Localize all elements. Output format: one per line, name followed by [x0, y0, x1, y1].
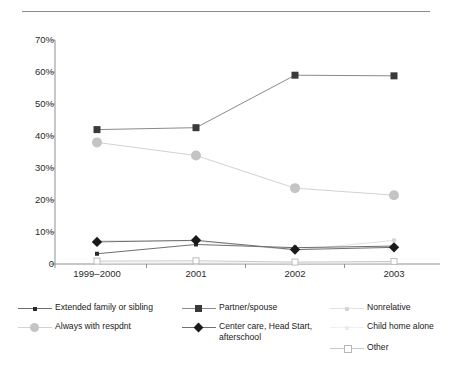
y-axis-tick-label-text: 10% [18, 227, 54, 236]
chart-legend: Extended family or siblingPartner/spouse… [0, 300, 452, 378]
legend-label: Nonrelative [367, 302, 410, 313]
series-line [97, 261, 394, 262]
y-axis-tick-label: 0 [12, 259, 54, 269]
data-point-marker [290, 244, 300, 254]
legend-label: Extended family or sibling [55, 302, 153, 313]
legend-label: Other [367, 342, 389, 353]
data-point-marker [193, 258, 199, 264]
legend-label: Partner/spouse [219, 302, 277, 313]
data-point-marker [92, 137, 102, 147]
legend-swatch [182, 322, 216, 333]
legend-open-square-marker-icon [344, 345, 352, 353]
data-point-marker [95, 252, 99, 256]
data-point-marker [391, 72, 398, 79]
legend-swatch [330, 303, 364, 314]
legend-small-square-marker-icon [345, 307, 349, 311]
line-chart-svg [0, 0, 452, 292]
legend-square-marker-icon [195, 305, 202, 312]
legend-item[interactable]: Extended family or sibling [18, 302, 153, 314]
legend-label: Always with respdnt [55, 321, 131, 332]
legend-small-square-marker-icon [33, 307, 37, 311]
y-axis-tick-label: 30% [12, 163, 54, 173]
data-point-marker [389, 190, 399, 200]
legend-swatch [330, 322, 364, 333]
legend-swatch [182, 303, 216, 314]
y-axis-tick-label-text: 30% [18, 163, 54, 172]
y-axis-tick-label-text: 0 [18, 259, 54, 268]
legend-item[interactable]: Partner/spouse [182, 302, 277, 314]
data-point-marker [191, 151, 201, 161]
legend-swatch [18, 322, 52, 333]
series-center-care-head-start-afterschool [92, 235, 399, 255]
x-axis-tick-label: 2001 [151, 268, 241, 279]
y-axis-tick-label-text: 20% [18, 195, 54, 204]
legend-item[interactable]: Always with respdnt [18, 321, 131, 333]
series-partner-spouse [94, 72, 398, 133]
y-axis-tick-label: 50% [12, 99, 54, 109]
data-point-marker [292, 72, 299, 79]
y-axis-tick-label: 10% [12, 227, 54, 237]
y-axis-tick-label-text: 40% [18, 131, 54, 140]
series-line [97, 142, 394, 195]
y-axis-tick-label: 40% [12, 131, 54, 141]
data-point-marker [193, 124, 200, 131]
plot-area: 70%60%50%40%30%20%10%0 1999–200020012002… [0, 0, 452, 292]
series-always-with-respdnt [92, 137, 399, 200]
legend-swatch [18, 303, 52, 314]
chart-figure: 70%60%50%40%30%20%10%0 1999–200020012002… [0, 0, 452, 378]
x-axis-tick-label: 1999–2000 [52, 268, 142, 279]
y-axis-tick-label: 70% [12, 35, 54, 45]
data-point-marker [392, 238, 396, 242]
legend-circle-marker-icon [30, 323, 39, 332]
y-axis-tick-label-text: 60% [18, 67, 54, 76]
y-axis-tick-label: 60% [12, 67, 54, 77]
legend-item[interactable]: Center care, Head Start, afterschool [182, 321, 312, 342]
data-point-marker [290, 183, 300, 193]
legend-item[interactable]: Nonrelative [330, 302, 410, 314]
y-axis-tick-label: 20% [12, 195, 54, 205]
series-line [97, 244, 394, 253]
y-axis-tick-label-text: 50% [18, 99, 54, 108]
data-point-marker [391, 258, 397, 264]
legend-diamond-marker-icon [194, 323, 204, 333]
data-point-marker [389, 242, 399, 252]
legend-label: Center care, Head Start, afterschool [219, 321, 312, 342]
data-point-marker [191, 235, 201, 245]
data-point-marker [92, 237, 102, 247]
legend-item[interactable]: Child home alone [330, 321, 434, 333]
data-point-marker [94, 126, 101, 133]
legend-swatch [330, 343, 364, 354]
data-point-marker [292, 259, 298, 265]
legend-label: Child home alone [367, 321, 434, 332]
data-point-marker [94, 258, 100, 264]
x-axis-tick-label: 2002 [250, 268, 340, 279]
y-axis-tick-label-text: 70% [18, 35, 54, 44]
legend-item[interactable]: Other [330, 342, 389, 354]
series-line [97, 75, 394, 129]
x-axis-tick-label: 2003 [349, 268, 439, 279]
legend-small-square-marker-icon [345, 326, 349, 330]
